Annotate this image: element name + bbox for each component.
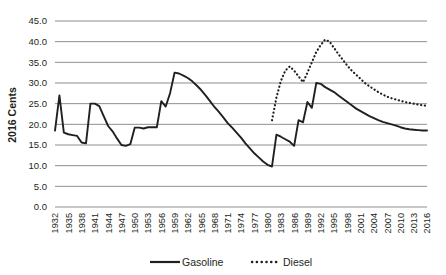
y-axis-tick-labels: 0.05.010.015.020.025.030.035.040.045.0: [29, 15, 48, 212]
x-tick-label: 1950: [130, 213, 140, 233]
x-tick-label: 1962: [183, 213, 193, 233]
x-tick-label: 1980: [263, 213, 273, 233]
x-tick-label: 1992: [316, 213, 326, 233]
series-line-diesel: [272, 40, 427, 121]
x-tick-label: 1965: [197, 213, 207, 233]
x-tick-label: 1974: [236, 213, 246, 233]
x-tick-label: 2016: [422, 213, 432, 233]
y-tick-label: 35.0: [29, 57, 48, 68]
x-tick-label: 1938: [77, 213, 87, 233]
x-tick-label: 1932: [50, 213, 60, 233]
legend-label-gasoline: Gasoline: [182, 256, 224, 268]
x-tick-label: 1953: [143, 213, 153, 233]
legend-group: GasolineDiesel: [150, 256, 312, 268]
x-axis-tick-labels: 1932193519381941194419471950195319561959…: [50, 213, 432, 233]
x-tick-label: 1956: [157, 213, 167, 233]
x-tick-label: 2007: [383, 213, 393, 233]
x-tick-label: 1959: [170, 213, 180, 233]
y-axis-title-group: 2016 Cents: [6, 87, 18, 143]
x-tick-label: 1989: [303, 213, 313, 233]
y-tick-label: 5.0: [34, 181, 47, 192]
y-tick-label: 25.0: [29, 98, 48, 109]
x-tick-label: 1941: [90, 213, 100, 233]
x-tick-label: 1998: [343, 213, 353, 233]
x-tick-label: 1977: [250, 213, 260, 233]
x-tick-label: 1935: [64, 213, 74, 233]
y-tick-label: 40.0: [29, 36, 48, 47]
x-tick-label: 2010: [396, 213, 406, 233]
legend-label-diesel: Diesel: [283, 256, 312, 268]
series-group: [55, 40, 427, 167]
x-tick-label: 2013: [409, 213, 419, 233]
y-axis-title: 2016 Cents: [6, 87, 18, 143]
y-tick-label: 30.0: [29, 77, 48, 88]
y-tick-label: 10.0: [29, 160, 48, 171]
gridlines-group: [55, 21, 427, 207]
x-tick-label: 1968: [210, 213, 220, 233]
y-tick-label: 0.0: [34, 201, 47, 212]
chart-svg: 0.05.010.015.020.025.030.035.040.045.0 1…: [0, 0, 446, 275]
x-tick-label: 1944: [104, 213, 114, 233]
chart-container: 0.05.010.015.020.025.030.035.040.045.0 1…: [0, 0, 446, 275]
x-tick-label: 1983: [276, 213, 286, 233]
y-tick-label: 20.0: [29, 119, 48, 130]
x-tick-label: 1971: [223, 213, 233, 233]
x-tick-label: 1995: [329, 213, 339, 233]
x-tick-label: 2001: [356, 213, 366, 233]
x-tick-label: 1986: [290, 213, 300, 233]
x-tick-label: 2004: [369, 213, 379, 233]
y-tick-label: 45.0: [29, 15, 48, 26]
y-tick-label: 15.0: [29, 139, 48, 150]
x-tick-label: 1947: [117, 213, 127, 233]
